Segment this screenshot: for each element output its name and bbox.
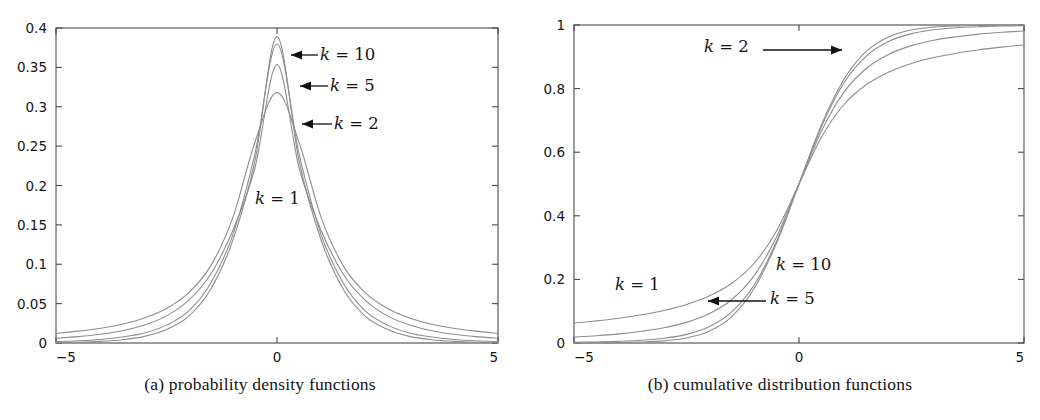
- annotation-arrow-head: [300, 81, 311, 90]
- x-tick-label: 5: [489, 349, 498, 365]
- x-tick-label: 0: [273, 349, 282, 365]
- annotation-arrow-head: [708, 296, 719, 305]
- annotation-label: k = 5: [770, 289, 815, 308]
- annotation-label: k = 1: [255, 189, 300, 208]
- plot-box: [56, 28, 498, 343]
- panel-probability-density-functions: 00.050.10.150.20.250.30.350.4−505k = 10k…: [0, 0, 520, 420]
- y-tick-label: 0.3: [26, 99, 47, 115]
- annotation-k-10: k = 10: [776, 255, 831, 274]
- y-tick-label: 0.05: [17, 296, 47, 312]
- data-curve-kkkk1: [56, 92, 498, 333]
- y-tick-label: 1: [556, 17, 565, 33]
- annotation-label: k = 5: [330, 76, 375, 95]
- y-tick-label: 0.4: [544, 208, 565, 224]
- annotation-k-5: k = 5: [300, 76, 375, 95]
- plot-area-pdf: 00.050.10.150.20.250.30.350.4−505k = 10k…: [0, 0, 520, 370]
- y-tick-label: 0.35: [17, 59, 47, 75]
- x-tick-label: −5: [56, 349, 76, 365]
- y-tick-label: 0.25: [17, 138, 47, 154]
- annotation-label: k = 1: [615, 275, 660, 294]
- annotation-arrow-head: [831, 45, 842, 54]
- annotation-k-10: k = 10: [291, 45, 375, 64]
- annotation-label: k = 10: [776, 255, 831, 274]
- figure-student-t-distributions: 00.050.10.150.20.250.30.350.4−505k = 10k…: [0, 0, 1040, 420]
- annotation-arrow-head: [302, 119, 313, 128]
- y-tick-label: 0.6: [544, 144, 565, 160]
- plot-area-cdf: 00.20.40.60.81−505k = 2k = 10k = 1k = 5: [520, 0, 1040, 370]
- caption-panel-b: (b) cumulative distribution functions: [520, 374, 1040, 395]
- annotation-k-1: k = 1: [615, 275, 660, 294]
- y-tick-label: 0.1: [26, 256, 47, 272]
- y-tick-label: 0.8: [544, 81, 565, 97]
- y-tick-label: 0.2: [544, 271, 565, 287]
- y-tick-label: 0.2: [26, 178, 47, 194]
- x-tick-label: −5: [574, 349, 594, 365]
- annotation-label: k = 2: [704, 37, 749, 56]
- annotation-k-2: k = 2: [704, 37, 842, 56]
- caption-panel-a: (a) probability density functions: [0, 374, 520, 395]
- panel-cumulative-distribution-functions: 00.20.40.60.81−505k = 2k = 10k = 1k = 5 …: [520, 0, 1040, 420]
- y-tick-label: 0: [556, 335, 565, 351]
- annotation-label: k = 2: [334, 114, 379, 133]
- annotation-k-2: k = 2: [302, 114, 379, 133]
- annotation-arrow-head: [291, 50, 302, 59]
- x-tick-label: 0: [795, 349, 804, 365]
- y-tick-label: 0.4: [26, 20, 47, 36]
- y-tick-label: 0.15: [17, 217, 47, 233]
- x-tick-label: 5: [1015, 349, 1024, 365]
- annotation-label: k = 10: [320, 45, 375, 64]
- annotation-k-1: k = 1: [255, 189, 300, 208]
- y-tick-label: 0: [38, 335, 47, 351]
